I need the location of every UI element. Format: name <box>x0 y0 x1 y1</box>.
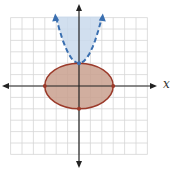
marked-point <box>77 107 81 111</box>
x-axis-left-arrow-icon <box>2 83 9 89</box>
marked-point <box>111 84 115 88</box>
marked-point <box>77 61 81 65</box>
x-axis-label: x <box>163 77 170 91</box>
y-axis-up-arrow-icon <box>76 4 82 11</box>
marked-point <box>43 84 47 88</box>
graph <box>0 0 176 173</box>
y-axis-down-arrow-icon <box>76 161 82 168</box>
x-axis-right-arrow-icon <box>150 83 157 89</box>
